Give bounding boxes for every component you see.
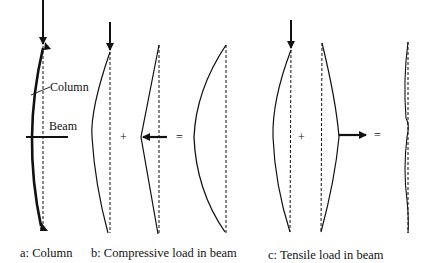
centerline-dashed	[321, 43, 322, 232]
support-triangle-top	[44, 42, 51, 50]
centerline-dashed	[290, 50, 291, 232]
column-label-leader	[31, 87, 50, 95]
column-label: Column	[50, 81, 89, 93]
panel-a-column	[26, 0, 68, 231]
panel-b-compressive	[92, 22, 226, 234]
plus-operator: +	[298, 131, 305, 143]
beam-label: Beam	[49, 120, 77, 132]
equals-operator: =	[176, 131, 183, 143]
beam-load-deflection-curve	[321, 43, 339, 232]
panel-c-tensile	[273, 20, 408, 233]
caption-panel-c: c: Tensile load in beam	[268, 249, 384, 262]
beam-load-deflection-curve	[141, 45, 159, 234]
caption-panel-a: a: Column	[20, 247, 72, 260]
column-deflection-curve	[92, 52, 110, 233]
equals-operator: =	[374, 129, 381, 141]
resultant-deflection-curve	[194, 45, 226, 232]
column-deflection-curve	[273, 50, 291, 232]
support-triangle-bottom	[40, 222, 48, 231]
caption-panel-b: b: Compressive load in beam	[91, 247, 237, 260]
plus-operator: +	[120, 131, 127, 143]
